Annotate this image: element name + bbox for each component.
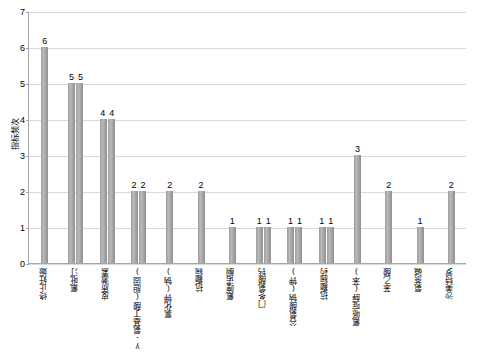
bar-value-labels: 2 [166, 180, 174, 190]
bar-group: 1 [217, 12, 248, 263]
bar[interactable] [76, 83, 83, 263]
bar-group: 2 [436, 12, 467, 263]
y-axis-tick-mark [26, 264, 29, 265]
x-axis-tick-label: 沙美特罗 [445, 268, 454, 300]
bar[interactable] [131, 191, 138, 263]
bar-group: 6 [29, 12, 60, 263]
bar-value-label: 5 [76, 72, 84, 82]
bar-value-label: 2 [139, 180, 147, 190]
bar-value-label: 1 [416, 216, 424, 226]
x-axis-tick-label: γ-氨基丁酸(胆固) [133, 268, 142, 352]
bar-value-labels: 6 [41, 36, 49, 46]
bar-value-labels: 44 [99, 108, 116, 118]
y-axis-tick-label: 4 [20, 115, 25, 125]
bar[interactable] [108, 119, 115, 263]
bar-group: 2 [373, 12, 404, 263]
bar-value-label: 4 [99, 108, 107, 118]
bar[interactable] [327, 227, 334, 263]
x-axis-tick-label: 终止妊娠 [39, 268, 48, 300]
x-axis-tick-label: 氟哌啶醇(苯) [352, 268, 361, 326]
bar[interactable] [256, 227, 263, 263]
bar-value-labels: 2 [197, 180, 205, 190]
x-axis-tick-label: 苯乙酸 [383, 268, 392, 292]
bar-value-labels: 11 [318, 216, 335, 226]
bar[interactable] [68, 83, 75, 263]
y-axis-tick-label: 5 [20, 79, 25, 89]
bar-value-label: 1 [327, 216, 335, 226]
bar-value-label: 6 [41, 36, 49, 46]
bar-group: 11 [279, 12, 310, 263]
bar[interactable] [166, 191, 173, 263]
bar-value-label: 3 [353, 144, 361, 154]
bar-value-labels: 1 [416, 216, 424, 226]
x-axis-tick-label: 抗癫痫药 [320, 268, 329, 300]
bar[interactable] [264, 227, 271, 263]
bar-value-label: 5 [67, 72, 75, 82]
bar[interactable] [385, 191, 392, 263]
bar-value-label: 2 [447, 180, 455, 190]
bar[interactable] [41, 47, 48, 263]
x-axis-tick-label: 氟喹诺酮 [226, 268, 235, 300]
bar[interactable] [354, 155, 361, 263]
x-axis-tick-label: 抗癫痫 [195, 268, 204, 292]
bar-value-label: 1 [228, 216, 236, 226]
bar-value-label: 1 [286, 216, 294, 226]
bar-value-label: 4 [108, 108, 116, 118]
y-axis-tick-label: 1 [20, 223, 25, 233]
bar-value-label: 1 [295, 216, 303, 226]
bar-value-label: 1 [264, 216, 272, 226]
bar-group: 11 [311, 12, 342, 263]
bar-value-label: 2 [130, 180, 138, 190]
bar[interactable] [100, 119, 107, 263]
bar-value-label: 1 [255, 216, 263, 226]
x-axis-tick-label: 谷氨酸钠(钾) [289, 268, 298, 326]
plot-area: 0123456765544222211111113212 [28, 12, 466, 264]
x-axis-tick-label: 门冬氨酸钙 [258, 268, 267, 308]
bar-value-labels: 11 [255, 216, 272, 226]
bar-group: 2 [185, 12, 216, 263]
bar-group: 11 [248, 12, 279, 263]
bar[interactable] [448, 191, 455, 263]
bar-value-label: 2 [385, 180, 393, 190]
bar-group: 44 [92, 12, 123, 263]
x-axis-tick-label: 氟吡汀 [70, 268, 79, 292]
y-axis-tick-label: 6 [20, 43, 25, 53]
bar-value-label: 1 [318, 216, 326, 226]
bar[interactable] [139, 191, 146, 263]
y-axis-tick-label: 3 [20, 151, 25, 161]
bar[interactable] [229, 227, 236, 263]
x-axis-tick-label: 皮质激素 [101, 268, 110, 300]
bar-value-labels: 1 [228, 216, 236, 226]
bar[interactable] [295, 227, 302, 263]
y-axis-tick-label: 0 [20, 259, 25, 269]
gridline [29, 264, 466, 265]
bar-value-labels: 2 [385, 180, 393, 190]
bar-group: 2 [154, 12, 185, 263]
bar-value-label: 2 [166, 180, 174, 190]
bar-group: 3 [342, 12, 373, 263]
bar-group: 1 [404, 12, 435, 263]
bar[interactable] [287, 227, 294, 263]
bar[interactable] [417, 227, 424, 263]
bar-value-labels: 55 [67, 72, 84, 82]
y-axis-tick-label: 7 [20, 7, 25, 17]
y-axis-tick-label: 2 [20, 187, 25, 197]
bar-group: 22 [123, 12, 154, 263]
y-axis-title: 指标频次 [9, 94, 20, 174]
bar-value-labels: 11 [286, 216, 303, 226]
x-axis-tick-label: 氨茶碱 [414, 268, 423, 292]
bar-value-label: 2 [197, 180, 205, 190]
bar-value-labels: 22 [130, 180, 147, 190]
x-axis-tick-label: 氯化钾(钠) [164, 268, 173, 318]
bar-value-labels: 2 [447, 180, 455, 190]
bar[interactable] [198, 191, 205, 263]
bar-value-labels: 3 [353, 144, 361, 154]
bar-group: 55 [60, 12, 91, 263]
bar[interactable] [319, 227, 326, 263]
